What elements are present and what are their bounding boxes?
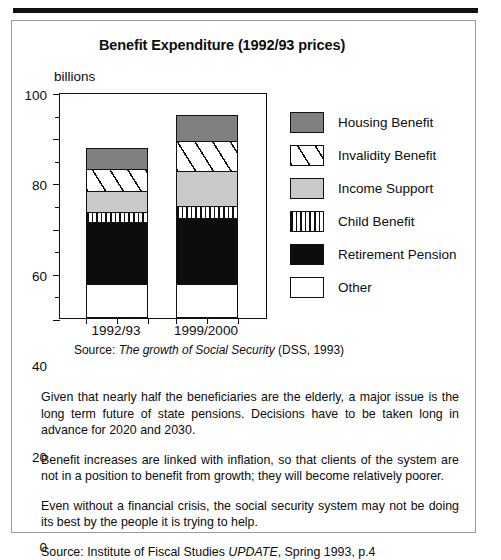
y-tick-mark: 0	[53, 320, 60, 321]
legend-item: Income Support	[290, 172, 470, 205]
y-tick-mark: 80	[53, 139, 60, 140]
legend-swatch	[290, 178, 324, 199]
bar-segment	[86, 222, 148, 285]
bar-segment	[86, 284, 148, 318]
y-tick-mark-minor	[55, 252, 60, 253]
y-tick-label: 60	[32, 268, 47, 283]
prose-source-line: Source: Institute of Fiscal Studies UPDA…	[41, 544, 459, 560]
legend-item: Housing Benefit	[290, 106, 470, 139]
body-prose: Given that nearly half the beneficiaries…	[41, 389, 459, 560]
top-divider-rule	[13, 8, 478, 13]
bar-segment	[176, 284, 238, 318]
y-tick-label: 80	[32, 178, 47, 193]
legend-item: Invalidity Benefit	[290, 139, 470, 172]
y-tick-mark: 20	[53, 275, 60, 276]
legend-swatch	[290, 112, 324, 133]
legend-swatch	[290, 145, 324, 166]
legend-item: Child Benefit	[290, 205, 470, 238]
chart-source-prefix: Source:	[74, 343, 119, 357]
y-tick-mark-minor	[55, 117, 60, 118]
bar-segment	[176, 115, 238, 142]
bar-segment	[176, 218, 238, 286]
y-tick-mark: 100	[53, 94, 60, 95]
y-tick-label: 100	[24, 88, 47, 103]
y-tick-label: 40	[32, 359, 47, 374]
prose-source-prefix: Source: Institute of Fiscal Studies	[41, 545, 228, 559]
y-tick-mark-minor	[55, 162, 60, 163]
chart-source-note: Source: The growth of Social Security (D…	[59, 343, 359, 357]
legend-item: Retirement Pension	[290, 238, 470, 271]
legend-label: Invalidity Benefit	[338, 148, 436, 163]
legend-item: Other	[290, 271, 470, 304]
bar-segment	[86, 169, 148, 192]
legend-label: Income Support	[338, 181, 433, 196]
chart-title: Benefit Expenditure (1992/93 prices)	[12, 37, 432, 53]
bar-segment	[176, 171, 238, 207]
legend-swatch	[290, 244, 324, 265]
legend-label: Other	[338, 280, 372, 295]
bar-segment	[86, 148, 148, 171]
x-category-label: 1992/93	[71, 323, 161, 338]
plot-area: 020406080100	[59, 93, 267, 319]
legend-label: Housing Benefit	[338, 115, 433, 130]
bar-segment	[176, 141, 238, 173]
x-category-label: 1999/2000	[161, 323, 251, 338]
y-axis-unit-label: billions	[54, 69, 95, 84]
legend-label: Retirement Pension	[338, 247, 457, 262]
prose-paragraph-1: Given that nearly half the beneficiaries…	[41, 389, 459, 439]
y-tick-mark: 60	[53, 184, 60, 185]
y-tick-mark: 40	[53, 230, 60, 231]
prose-paragraph-2: Benefit increases are linked with inflat…	[41, 452, 459, 485]
chart-source-suffix: (DSS, 1993)	[275, 343, 344, 357]
prose-paragraph-3: Even without a financial crisis, the soc…	[41, 498, 459, 531]
chart-legend: Housing BenefitInvalidity BenefitIncome …	[290, 106, 470, 304]
chart-figure: Benefit Expenditure (1992/93 prices) bil…	[12, 21, 477, 381]
prose-source-suffix: , Spring 1993, p.4	[278, 545, 376, 559]
y-tick-mark-minor	[55, 207, 60, 208]
y-tick-mark-minor	[55, 297, 60, 298]
stacked-bar	[86, 149, 148, 318]
stacked-bar	[176, 116, 238, 318]
content-frame: Benefit Expenditure (1992/93 prices) bil…	[11, 20, 476, 533]
legend-swatch	[290, 277, 324, 298]
legend-label: Child Benefit	[338, 214, 415, 229]
bar-segment	[86, 191, 148, 214]
prose-source-title: UPDATE	[228, 545, 277, 559]
legend-swatch	[290, 211, 324, 232]
chart-source-title: The growth of Social Security	[119, 343, 275, 357]
